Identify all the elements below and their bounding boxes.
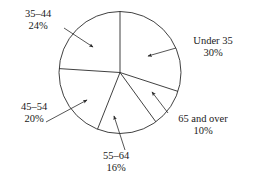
slice-label-45-54: 45–54 20% xyxy=(2,101,66,125)
slice-label-35-44-value: 24% xyxy=(6,20,70,32)
slice-label-65-and-over: 65 and over 10% xyxy=(160,113,246,137)
pie-chart-figure: 35–44 24% Under 35 30% 45–54 20% 55–64 1… xyxy=(0,0,257,192)
slice-divider-273.6deg xyxy=(59,69,120,73)
leader-line-under-35 xyxy=(148,48,176,56)
slice-label-65-and-over-name: 65 and over xyxy=(160,113,246,125)
slice-divider-201.6deg xyxy=(98,73,121,130)
slice-divider-144deg xyxy=(120,73,156,122)
slice-label-45-54-name: 45–54 xyxy=(2,101,66,113)
slice-label-35-44-name: 35–44 xyxy=(6,8,70,20)
slice-label-55-64-value: 16% xyxy=(84,162,148,174)
slice-divider-108deg xyxy=(120,73,178,92)
slice-label-55-64: 55–64 16% xyxy=(84,150,148,174)
slice-label-35-44: 35–44 24% xyxy=(6,8,70,32)
leader-line-65-and-over xyxy=(152,92,168,113)
slice-label-under-35-name: Under 35 xyxy=(176,35,250,47)
slice-label-55-64-name: 55–64 xyxy=(84,150,148,162)
slice-label-under-35: Under 35 30% xyxy=(176,35,250,59)
slice-label-under-35-value: 30% xyxy=(176,47,250,59)
slice-label-45-54-value: 20% xyxy=(2,113,66,125)
slice-label-65-and-over-value: 10% xyxy=(160,125,246,137)
